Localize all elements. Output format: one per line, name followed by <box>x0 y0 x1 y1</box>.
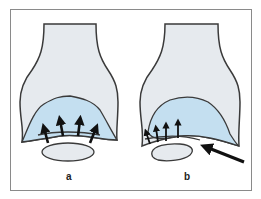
panel-label-b: b <box>184 171 190 182</box>
oblique-force-arrow <box>206 147 244 162</box>
panel-label-a: a <box>66 171 72 182</box>
panel-b <box>140 24 244 162</box>
diagram-canvas <box>0 0 261 199</box>
oval-b <box>152 144 193 161</box>
oval-a <box>42 143 94 161</box>
panel-a <box>20 24 118 161</box>
